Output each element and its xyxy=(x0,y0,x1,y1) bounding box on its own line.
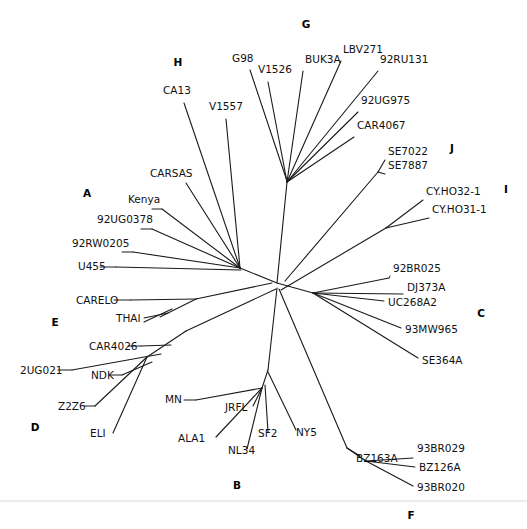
taxon-label: 2UG021 xyxy=(20,364,63,376)
clade-label: H xyxy=(174,56,183,68)
taxon-label: CY.HO32-1 xyxy=(426,185,481,197)
clade-label: C xyxy=(477,307,485,319)
clade-label: D xyxy=(31,421,40,433)
taxon-label: DJ373A xyxy=(407,281,446,293)
taxon-label: V1526 xyxy=(258,63,292,75)
taxon-label: JRFL xyxy=(224,401,247,413)
taxon-label: SE7887 xyxy=(388,159,428,171)
taxon-label: CA13 xyxy=(163,84,191,96)
taxon-label: 92RU131 xyxy=(380,53,428,65)
taxon-label: NL34 xyxy=(228,444,255,456)
clade-label: G xyxy=(302,18,311,30)
taxon-label: 93BR020 xyxy=(417,481,465,493)
clade-label: E xyxy=(51,316,58,328)
taxon-label: CY.HO31-1 xyxy=(432,203,487,215)
taxon-label: THAI xyxy=(115,312,141,324)
taxon-label: Kenya xyxy=(128,193,160,205)
taxon-label: SE7022 xyxy=(388,145,428,157)
taxon-label: ELI xyxy=(90,427,106,439)
taxon-label: SE364A xyxy=(422,354,463,366)
taxon-label: 92BR025 xyxy=(393,262,441,274)
taxon-label: CARSAS xyxy=(150,167,193,179)
taxon-label: SF2 xyxy=(258,427,277,439)
taxon-label: 92RW0205 xyxy=(72,237,129,249)
taxon-label: BZ126A xyxy=(419,461,461,473)
taxon-label: 92UG975 xyxy=(361,94,410,106)
clade-label: B xyxy=(233,479,241,491)
taxon-label: CARELO xyxy=(76,294,118,306)
taxon-label: 93BR029 xyxy=(417,442,465,454)
phylogenetic-tree-figure: CA13V1557G98V1526BUK3ALBV27192RU13192UG9… xyxy=(0,0,527,529)
taxon-label: ALA1 xyxy=(178,432,205,444)
taxon-label: NY5 xyxy=(296,426,317,438)
taxon-label: G98 xyxy=(232,52,254,64)
taxon-label: CAR4067 xyxy=(357,119,406,131)
taxon-label: BZ163A xyxy=(356,452,398,464)
clade-label: A xyxy=(83,187,92,199)
clade-label: F xyxy=(407,509,414,521)
taxon-label: UC268A2 xyxy=(388,296,437,308)
taxon-label: CAR4026 xyxy=(89,340,138,352)
clade-label: J xyxy=(449,142,454,154)
taxon-label: LBV271 xyxy=(343,43,383,55)
clade-label: I xyxy=(504,183,508,195)
taxon-label: 92UG0378 xyxy=(97,213,153,225)
phylogenetic-tree-canvas: CA13V1557G98V1526BUK3ALBV27192RU13192UG9… xyxy=(0,0,527,529)
taxon-label: U455 xyxy=(78,260,106,272)
taxon-label: BUK3A xyxy=(305,53,341,65)
taxon-label: Z2Z6 xyxy=(58,400,86,412)
taxon-label: V1557 xyxy=(209,100,243,112)
taxon-label: 93MW965 xyxy=(405,323,458,335)
taxon-label: NDK xyxy=(91,369,115,381)
taxon-label: MN xyxy=(165,393,182,405)
